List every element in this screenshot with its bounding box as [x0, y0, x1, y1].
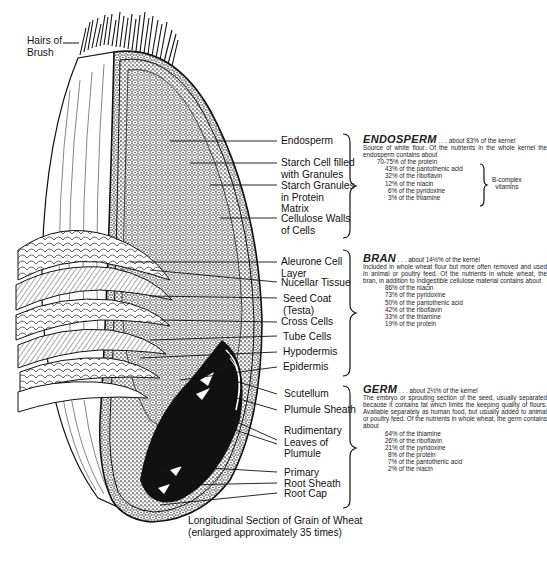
- list-item: 64% of the thiamine: [385, 430, 547, 437]
- list-item: 7% of the pantothenic acid: [385, 458, 547, 465]
- list-item: 21% of the pyridoxine: [385, 444, 547, 451]
- list-item: 26% of the riboflavin: [385, 437, 547, 444]
- b-complex-note: B-complex vitamins: [492, 176, 522, 190]
- section-lead: . . . about 83% of the kernel: [438, 137, 515, 144]
- list-item: 33% of the thiamine: [385, 313, 547, 320]
- section-germ: GERM . . . about 2½% of the kernel The e…: [363, 386, 547, 472]
- section-body: Included in whole wheat flour but more o…: [363, 263, 547, 284]
- label-primary: Primary: [284, 467, 319, 479]
- label-rudimentary-leaves: Rudimentary Leaves of Plumule: [284, 425, 342, 460]
- list-item: 42% of the riboflavin: [385, 306, 547, 313]
- label-root-cap: Root Cap: [284, 488, 327, 500]
- label-starch-granules: Starch Granules in Protein Matrix: [281, 180, 355, 215]
- label-scutellum: Scutellum: [284, 388, 329, 400]
- section-lead: . . . about 14½% of the kernel: [398, 256, 480, 263]
- label-nucellar-tissue: Nucellar Tissue: [281, 277, 351, 289]
- label-cellulose-walls: Cellulose Walls of Cells: [281, 213, 350, 236]
- label-starch-cell: Starch Cell filled with Granules: [281, 157, 355, 180]
- section-body: The embryo or sprouting section of the s…: [363, 394, 547, 429]
- section-body: Source of white flour. Of the nutrients …: [363, 144, 547, 158]
- figure-subtitle: (enlarged approximately 35 times): [188, 527, 362, 539]
- figure-caption: Longitudinal Section of Grain of Wheat (…: [188, 515, 362, 539]
- label-tube-cells: Tube Cells: [283, 331, 331, 343]
- section-bran: BRAN . . . about 14½% of the kernel Incl…: [363, 255, 547, 327]
- list-item: 50% of the pantothenic acid: [385, 299, 547, 306]
- list-item: 43% of the pantothenic acid: [377, 165, 547, 172]
- nutrient-list: 86% of the niacin 73% of the pyridoxine …: [363, 284, 547, 327]
- list-item: 3% of the thiamine: [377, 194, 547, 201]
- list-item: 70-75% of the protein: [377, 158, 547, 165]
- label-endosperm: Endosperm: [281, 135, 333, 147]
- label-hairs-of-brush: Hairs of Brush: [27, 35, 62, 58]
- figure-title: Longitudinal Section of Grain of Wheat: [188, 515, 362, 527]
- nutrient-list: 64% of the thiamine 26% of the riboflavi…: [363, 430, 547, 473]
- label-seed-coat: Seed Coat (Testa): [283, 293, 331, 316]
- label-plumule-sheath: Plumule Sheath: [284, 404, 356, 416]
- list-item: 19% of the protein: [385, 320, 547, 327]
- list-item: 2% of the niacin: [385, 465, 547, 472]
- label-cross-cells: Cross Cells: [281, 316, 333, 328]
- section-endosperm: ENDOSPERM . . . about 83% of the kernel …: [363, 136, 547, 201]
- label-hypodermis: Hypodermis: [283, 346, 337, 358]
- list-item: 86% of the niacin: [385, 284, 547, 291]
- section-lead: . . . about 2½% of the kernel: [399, 387, 478, 394]
- label-epidermis: Epidermis: [283, 361, 328, 373]
- list-item: 8% of the protein: [385, 451, 547, 458]
- list-item: 73% of the pyridoxine: [385, 291, 547, 298]
- label-aleurone: Aleurone Cell Layer: [281, 256, 342, 279]
